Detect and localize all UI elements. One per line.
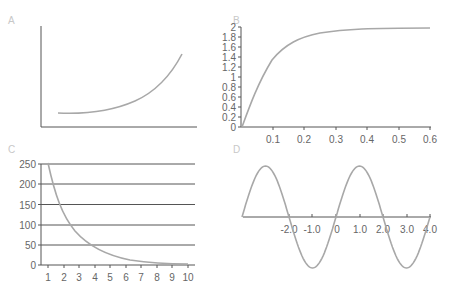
panel-c: C 0 50 100 150 200 250 [8, 144, 195, 283]
svg-text:3.0: 3.0 [400, 224, 414, 235]
svg-text:1.0: 1.0 [353, 224, 367, 235]
panel-b-curve [242, 28, 430, 127]
svg-text:-1.0: -1.0 [303, 224, 321, 235]
panel-c-label: C [8, 144, 15, 155]
svg-text:200: 200 [19, 179, 36, 190]
panel-d-label: D [233, 144, 240, 155]
svg-text:0.4: 0.4 [222, 102, 236, 113]
panel-c-gridlines [41, 164, 195, 245]
svg-text:0: 0 [230, 122, 236, 133]
panel-a-curve [58, 54, 182, 113]
svg-text:6: 6 [123, 272, 129, 283]
svg-text:9: 9 [169, 272, 175, 283]
svg-text:7: 7 [138, 272, 144, 283]
svg-text:1.8: 1.8 [222, 32, 236, 43]
svg-text:0.2: 0.2 [222, 112, 236, 123]
panel-d: D -2.0 -1.0 0 1.0 2.0 3.0 4.0 [233, 144, 437, 268]
svg-text:50: 50 [25, 240, 37, 251]
panel-c-curve [48, 163, 188, 264]
panel-c-y-ticks: 0 50 100 150 200 250 [19, 159, 41, 271]
panel-b-y-ticks: 0 0.2 0.4 0.6 0.8 1 1.2 1.4 1.6 1.8 2 [222, 22, 241, 133]
svg-text:-2.0: -2.0 [280, 224, 298, 235]
panel-a: A [8, 15, 197, 127]
figure: A B 0 0.2 0.4 0.6 0.8 1 1.2 [0, 0, 450, 294]
svg-text:0: 0 [30, 260, 36, 271]
svg-text:4: 4 [92, 272, 98, 283]
svg-text:0.5: 0.5 [392, 134, 406, 145]
svg-text:8: 8 [154, 272, 160, 283]
svg-text:0.2: 0.2 [297, 134, 311, 145]
svg-text:1: 1 [230, 72, 236, 83]
panel-a-label: A [8, 15, 15, 26]
panel-b: B 0 0.2 0.4 0.6 0.8 1 1.2 1.4 1.6 1.8 [222, 15, 437, 145]
svg-text:1: 1 [45, 272, 51, 283]
svg-text:1.2: 1.2 [222, 62, 236, 73]
svg-text:2: 2 [61, 272, 67, 283]
svg-text:2: 2 [230, 22, 236, 33]
panel-c-x-ticks: 1 2 3 4 5 6 7 8 9 10 [45, 265, 194, 283]
svg-text:0: 0 [334, 224, 340, 235]
svg-text:5: 5 [107, 272, 113, 283]
svg-text:0.6: 0.6 [222, 92, 236, 103]
svg-text:100: 100 [19, 220, 36, 231]
svg-text:150: 150 [19, 200, 36, 211]
panel-b-x-ticks: 0.1 0.2 0.3 0.4 0.5 0.6 [266, 127, 437, 145]
svg-text:0.4: 0.4 [360, 134, 374, 145]
svg-text:1.4: 1.4 [222, 52, 236, 63]
svg-text:10: 10 [182, 272, 194, 283]
svg-text:1.6: 1.6 [222, 42, 236, 53]
svg-text:3: 3 [76, 272, 82, 283]
svg-text:0.6: 0.6 [423, 134, 437, 145]
svg-text:0.1: 0.1 [266, 134, 280, 145]
svg-text:250: 250 [19, 159, 36, 170]
svg-text:0.3: 0.3 [329, 134, 343, 145]
svg-text:0.8: 0.8 [222, 82, 236, 93]
